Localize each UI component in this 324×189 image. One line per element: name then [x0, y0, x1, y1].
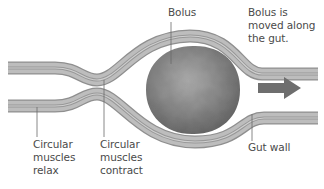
circular-muscles-relax-label: Circular muscles relax [33, 138, 75, 177]
bolus [146, 46, 240, 134]
circular-muscles-contract-label: Circular muscles contract [100, 138, 143, 177]
peristalsis-diagram: Bolus Bolus is moved along the gut. Circ… [0, 0, 324, 189]
bolus-label: Bolus [168, 6, 196, 19]
gut-wall-label: Gut wall [248, 141, 290, 154]
movement-label: Bolus is moved along the gut. [248, 6, 315, 45]
